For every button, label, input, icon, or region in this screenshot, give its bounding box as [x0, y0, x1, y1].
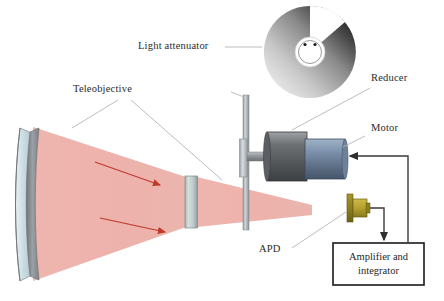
amplifier-line-2: integrator	[333, 264, 424, 278]
amplifier-line-1: Amplifier and	[333, 250, 424, 264]
wire-apd-to-amplifier	[370, 208, 384, 240]
label-reducer: Reducer	[371, 72, 407, 83]
leader-attenuator-rod	[231, 92, 244, 97]
label-motor: Motor	[371, 122, 398, 133]
teleobjective-lens	[16, 128, 40, 281]
label-apd: APD	[259, 243, 281, 254]
reducer-body	[264, 132, 308, 181]
leader-teleobjective-left	[72, 100, 118, 128]
optical-schematic-figure: Light attenuator Teleobjective Reducer M…	[0, 0, 444, 301]
label-teleobjective: Teleobjective	[73, 83, 132, 94]
apd-detector	[347, 194, 370, 222]
motor-body	[305, 139, 348, 179]
label-light-attenuator: Light attenuator	[138, 40, 209, 51]
field-lens	[185, 176, 198, 228]
light-attenuator-disc-faceview	[264, 6, 356, 98]
label-amplifier-integrator: Amplifier and integrator	[333, 250, 424, 278]
